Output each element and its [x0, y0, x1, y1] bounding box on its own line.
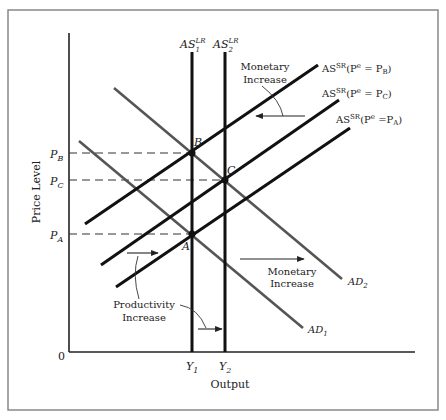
point-b-label: B	[193, 136, 202, 149]
point-b-marker	[189, 150, 196, 157]
point-c-marker	[222, 177, 229, 184]
economics-diagram: B C A PB PC PA 0 Y1 Y2 Output Price Leve…	[0, 0, 446, 420]
as-sr-pb-label: ASSR(Pe = PB)	[321, 62, 392, 76]
origin-label: 0	[58, 350, 65, 363]
x-axis-title: Output	[210, 378, 250, 391]
monetary-top-line2: Increase	[243, 74, 287, 85]
as-sr-pa-label: ASSR(Pe =PA)	[335, 113, 402, 127]
point-a-marker	[189, 231, 196, 238]
as-sr-pc-label: ASSR(Pe = PC)	[321, 87, 392, 101]
productivity-line2: Increase	[122, 312, 166, 323]
monetary-right-line2: Increase	[270, 278, 314, 289]
point-c-label: C	[227, 164, 236, 177]
monetary-right-line1: Monetary	[267, 266, 316, 277]
point-a-label: A	[181, 240, 190, 253]
monetary-top-line1: Monetary	[240, 61, 289, 72]
y-axis-title: Price Level	[30, 160, 43, 223]
productivity-line1: Productivity	[113, 299, 175, 310]
